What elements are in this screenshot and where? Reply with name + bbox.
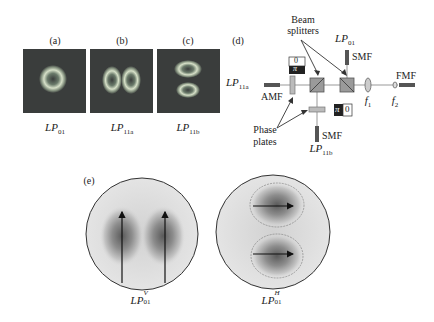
lp11b-input-label: LP11b [298, 142, 344, 157]
f2-label: f2 [385, 94, 405, 109]
panel-a-label: (a) [35, 35, 75, 46]
donut-mode-icon [23, 49, 86, 113]
lp01-caption: LP01 [25, 121, 85, 136]
lp11a-input-label: LP11a [226, 76, 266, 91]
lp01-input-label: LP01 [322, 32, 368, 47]
phase-plate-2-left-value: π [335, 104, 340, 114]
amf-label: AMF [261, 91, 283, 102]
mode-image-lp11b [157, 49, 220, 113]
lp11a-caption: LP11a [92, 121, 152, 136]
panel-d-label: (d) [228, 35, 248, 46]
phase-plates-label: Phase plates [245, 124, 285, 148]
mode-image-lp01 [23, 49, 86, 113]
phase-plate-2-right-value: 0 [345, 104, 350, 114]
smf-bottom-label: SMF [322, 130, 342, 141]
mode-image-lp11a [90, 49, 153, 113]
lp01-vertical-caption: LPV01 [113, 294, 173, 306]
fmf-label: FMF [396, 70, 416, 81]
two-lobe-vertical-icon [157, 49, 220, 113]
smf-top-label: SMF [352, 51, 372, 62]
phase-plate-1-bottom-value: π [293, 64, 297, 73]
lp01-horizontal-caption: LPH01 [244, 294, 304, 306]
beam-splitters-label: Beam splitters [278, 14, 328, 36]
panel-e-label: (e) [79, 175, 99, 186]
two-lobe-horizontal-icon [90, 49, 153, 113]
lp11b-caption: LP11b [158, 121, 218, 136]
panel-c-label: (c) [168, 35, 208, 46]
panel-b-label: (b) [102, 35, 142, 46]
f1-label: f1 [358, 94, 378, 109]
